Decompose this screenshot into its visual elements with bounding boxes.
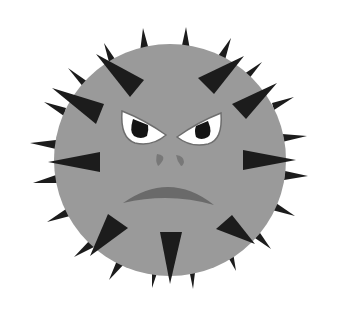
virus-illustration	[0, 0, 348, 312]
illustration: Grayscale illustration of a round gray b…	[0, 0, 348, 312]
